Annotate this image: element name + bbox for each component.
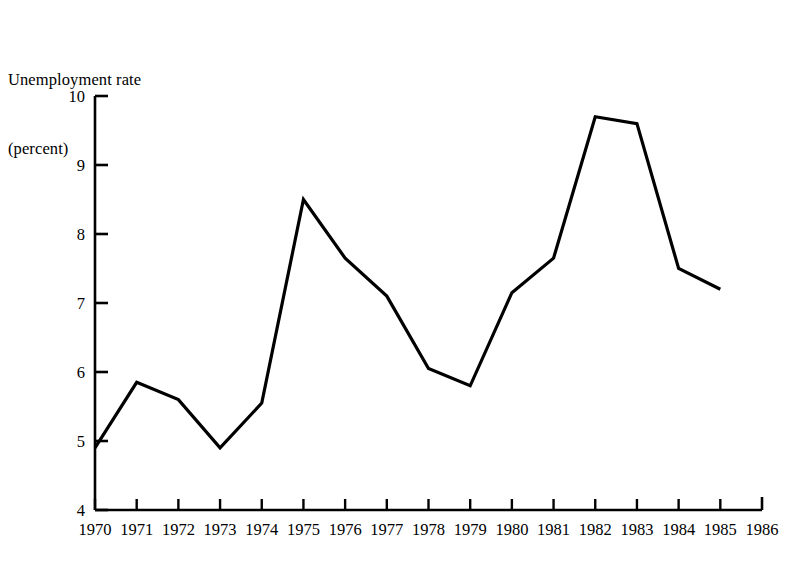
x-tick-label-1973: 1973	[204, 520, 237, 539]
y-tick-label-5: 5	[77, 432, 85, 451]
x-tick-label-1971: 1971	[120, 520, 153, 539]
x-tick-label-1982: 1982	[579, 520, 612, 539]
x-tick-label-1980: 1980	[495, 520, 528, 539]
x-tick-label-1975: 1975	[287, 520, 320, 539]
x-tick-label-1984: 1984	[662, 520, 695, 539]
y-tick-label-9: 9	[77, 156, 85, 175]
y-tick-label-7: 7	[77, 294, 85, 313]
axis-lines	[95, 96, 762, 510]
y-tick-label-4: 4	[77, 501, 85, 520]
x-tick-label-1974: 1974	[245, 520, 278, 539]
unemployment-rate-line-chart: Unemployment rate (percent) 10987654 197…	[0, 0, 787, 564]
x-tick-label-1981: 1981	[537, 520, 570, 539]
x-tick-label-1972: 1972	[162, 520, 195, 539]
x-tick-label-1979: 1979	[454, 520, 487, 539]
x-axis-ticks	[95, 499, 720, 510]
x-axis-tick-labels: 1970197119721973197419751976197719781979…	[79, 520, 779, 539]
unemployment-rate-data-line	[95, 117, 720, 448]
y-axis-tick-labels: 10987654	[69, 87, 86, 520]
y-tick-label-8: 8	[77, 225, 85, 244]
x-tick-label-1976: 1976	[329, 520, 362, 539]
x-tick-label-1977: 1977	[370, 520, 403, 539]
x-tick-label-1970: 1970	[79, 520, 112, 539]
y-axis-ticks	[95, 96, 108, 510]
y-tick-label-10: 10	[69, 87, 86, 106]
x-tick-label-1985: 1985	[704, 520, 737, 539]
plot-area: 10987654 1970197119721973197419751976197…	[0, 0, 787, 564]
x-tick-label-1986: 1986	[746, 520, 779, 539]
y-tick-label-6: 6	[77, 363, 85, 382]
x-tick-label-1978: 1978	[412, 520, 445, 539]
x-tick-label-1983: 1983	[620, 520, 653, 539]
